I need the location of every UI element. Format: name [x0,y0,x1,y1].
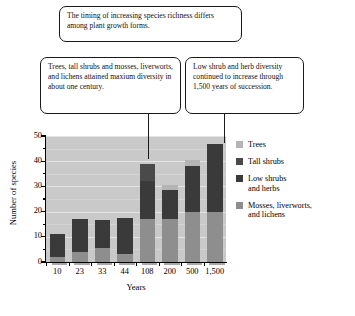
bar-33[interactable] [95,136,111,262]
x-axis-tick [159,262,160,266]
legend-item-moss[interactable]: Mosses, liverworts, and lichens [236,201,352,220]
legend: TreesTall shrubsLow shrubs and herbsMoss… [236,140,352,228]
bar-500[interactable] [185,136,201,262]
bar-segment [140,164,156,182]
bar-segment [185,166,201,211]
legend-swatch-icon [236,202,243,209]
y-axis-minor-tick [43,173,46,174]
x-axis-tick [69,262,70,266]
x-axis-tick [204,262,205,266]
legend-item-low[interactable]: Low shrubs and herbs [236,174,352,193]
y-axis-minor-tick [43,198,46,199]
bar-segment [207,144,223,212]
y-axis-minor-tick [43,224,46,225]
callout-top: The timing of increasing species richnes… [59,6,242,42]
bar-segment [117,254,133,262]
y-axis-tick-label: 0 [18,258,42,266]
y-axis-minor-tick [43,148,46,149]
bar-segment [117,218,133,255]
callout-left: Trees, tall shrubs and mosses, liverwort… [40,57,181,114]
x-axis-tick [181,262,182,266]
bar-segment [207,212,223,262]
bar-segment [95,220,111,248]
bar-segment [140,181,156,219]
legend-label: Mosses, liverworts, and lichens [248,201,312,220]
x-axis-tick [114,262,115,266]
legend-item-trees[interactable]: Trees [236,140,352,150]
figure-stacked-bar-chart: The timing of increasing species richnes… [0,0,355,316]
bar-segment [140,219,156,262]
y-axis-line [45,135,46,263]
x-axis-tick [91,262,92,266]
legend-item-tall[interactable]: Tall shrubs [236,157,352,167]
bar-segment [72,219,88,252]
y-axis-minor-tick [43,249,46,250]
bar-23[interactable] [72,136,88,262]
bar-segment [185,212,201,262]
y-axis-tick-label: 50 [18,132,42,140]
callout-right-leader-line [224,114,225,143]
bar-200[interactable] [162,136,178,262]
legend-swatch-icon [236,158,243,165]
callout-right-text: Low shrub and herb diversity continued t… [193,62,283,91]
callout-left-text: Trees, tall shrubs and mosses, liverwort… [48,62,173,91]
callout-left-leader-line [148,114,149,159]
bar-segment [72,252,88,262]
y-axis-tick [41,261,45,262]
y-axis-tick-label: 20 [18,207,42,215]
y-axis-tick [41,211,45,212]
x-axis-tick [136,262,137,266]
x-axis-tick-label: 1,500 [199,267,231,276]
callout-top-text: The timing of increasing species richnes… [67,11,214,30]
bar-segment [95,248,111,262]
bar-1500[interactable] [207,136,223,262]
callout-right: Low shrub and herb diversity continued t… [185,57,304,114]
y-axis-tick [41,161,45,162]
bar-segment [50,234,66,257]
legend-swatch-icon [236,175,243,182]
bar-segment [162,190,178,219]
y-axis-title: Number of species [8,145,18,241]
bar-segment [162,219,178,262]
y-axis-tick [41,186,45,187]
y-axis-tick-label: 40 [18,157,42,165]
legend-label: Trees [248,140,266,150]
y-axis-tick [41,236,45,237]
legend-label: Tall shrubs [248,157,284,167]
x-axis-title: Years [46,282,226,292]
y-axis-tick-label: 10 [18,232,42,240]
y-axis-tick [41,135,45,136]
legend-swatch-icon [236,141,243,148]
bar-44[interactable] [117,136,133,262]
legend-label: Low shrubs and herbs [248,174,286,193]
bar-10[interactable] [50,136,66,262]
y-axis-tick-label: 30 [18,182,42,190]
x-axis-tick [46,262,47,266]
